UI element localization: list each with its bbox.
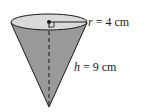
radius-label: r = 4 cm <box>88 16 129 28</box>
height-label: h = 9 cm <box>74 61 116 73</box>
center-point <box>47 20 51 24</box>
